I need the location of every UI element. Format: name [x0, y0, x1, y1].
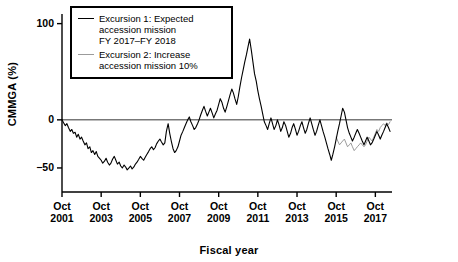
x-tick-label: Oct2001 [40, 200, 84, 224]
y-tick-label: 100 [10, 17, 54, 29]
x-tick-label: Oct2009 [197, 200, 241, 224]
legend-swatch-icon [78, 49, 94, 60]
legend-swatch-icon [78, 13, 94, 24]
x-tick-label: Oct2003 [79, 200, 123, 224]
y-tick-label: −50 [10, 161, 54, 173]
chart-container: CMMGA (%) Fiscal year −500100Oct2001Oct2… [0, 0, 458, 262]
x-tick-label: Oct2015 [314, 200, 358, 224]
y-tick-label: 0 [10, 113, 54, 125]
legend-label: Excursion 2: Increase accession mission … [99, 49, 198, 71]
legend-item-excursion-1: Excursion 1: Expected accession mission … [78, 13, 225, 46]
legend-item-excursion-2: Excursion 2: Increase accession mission … [78, 49, 225, 71]
chart-legend: Excursion 1: Expected accession mission … [70, 6, 233, 79]
x-tick-label: Oct2013 [275, 200, 319, 224]
x-tick-label: Oct2017 [353, 200, 397, 224]
x-tick-label: Oct2005 [118, 200, 162, 224]
legend-label: Excursion 1: Expected accession mission … [99, 13, 194, 46]
x-axis-title: Fiscal year [0, 244, 458, 256]
x-tick-label: Oct2011 [236, 200, 280, 224]
x-tick-label: Oct2007 [158, 200, 202, 224]
